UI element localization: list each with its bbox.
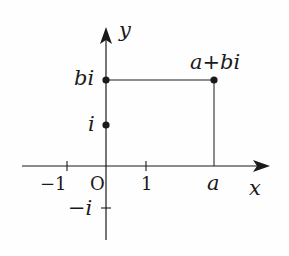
point-i [102,121,109,128]
label-a-plus-bi: a+bi [190,52,240,73]
label-bi: bi [74,68,94,89]
complex-plane-diagram: y x O −1 1 a bi i −i a+bi [0,0,289,256]
tick-label-one: 1 [141,175,152,193]
label-neg-i: −i [68,198,92,219]
axes-graphic [0,0,289,256]
label-i: i [88,114,95,135]
tick-label-a: a [207,173,220,194]
point-a-plus-bi [210,76,217,83]
tick-label-neg-one: −1 [40,175,67,193]
x-axis-label: x [249,178,261,199]
y-axis-label: y [119,20,131,41]
point-bi [102,76,109,83]
origin-label: O [90,175,105,193]
